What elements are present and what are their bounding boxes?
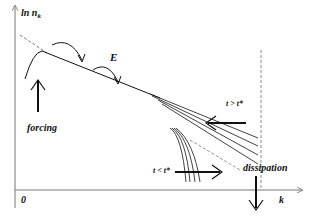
power-law-extension xyxy=(20,35,47,53)
x-axis-label: k xyxy=(279,195,284,205)
inertial-range-line xyxy=(47,53,160,98)
y-axis-label: ln nk xyxy=(21,8,41,20)
forcing-label: forcing xyxy=(27,123,57,133)
forcing-arrow xyxy=(31,80,45,112)
early-time-spectra xyxy=(170,128,200,182)
late-time-arrow xyxy=(206,116,246,130)
origin-label: 0 xyxy=(21,195,26,205)
late-time-label: t > t* xyxy=(226,100,243,108)
early-time-label: t < t* xyxy=(153,167,170,175)
forcing-spectrum-curve xyxy=(25,51,47,79)
energy-flux-label: E xyxy=(110,52,117,63)
y-axis-label-subscript: k xyxy=(37,12,41,20)
late-time-dashed xyxy=(190,140,240,170)
y-axis-label-text: ln n xyxy=(21,7,37,18)
early-time-arrow xyxy=(175,165,222,179)
dissipation-label: dissipation xyxy=(243,163,287,173)
diagram-graphics xyxy=(0,0,315,221)
energy-cascade-arrows xyxy=(52,43,121,84)
cascade-diagram: ln nk 0 k forcing E t > t* t < t* dissip… xyxy=(0,0,315,221)
